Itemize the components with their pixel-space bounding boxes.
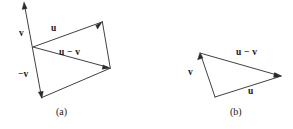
vector-v-line-b xyxy=(201,56,215,98)
vector-v-arrowhead-a xyxy=(22,2,27,9)
vector-u-line-a xyxy=(33,23,100,47)
vector-diagram-canvas xyxy=(0,0,293,129)
label-vector-v-a: v xyxy=(19,29,24,39)
label-vector-u-b: u xyxy=(248,87,253,97)
parallelogram-side-bottom-a xyxy=(42,68,110,97)
vector-v-line-a xyxy=(25,5,42,97)
vector-diagram-figure: v −v u u − v (a) v u − v u (b) xyxy=(0,0,293,129)
label-vector-u-minus-v-a: u − v xyxy=(59,48,80,58)
label-vector-u-minus-v-b: u − v xyxy=(236,48,257,58)
label-vector-neg-v-a: −v xyxy=(18,70,29,80)
caption-panel-a: (a) xyxy=(56,107,67,117)
panel-b-graphics xyxy=(198,52,282,97)
parallelogram-side-right-a xyxy=(102,22,110,69)
label-vector-u-a: u xyxy=(51,24,56,34)
label-vector-v-b: v xyxy=(188,68,193,78)
vector-u-line-b xyxy=(215,77,279,97)
vector-u-minus-v-arrowhead-b xyxy=(274,73,282,77)
caption-panel-b: (b) xyxy=(230,107,242,117)
